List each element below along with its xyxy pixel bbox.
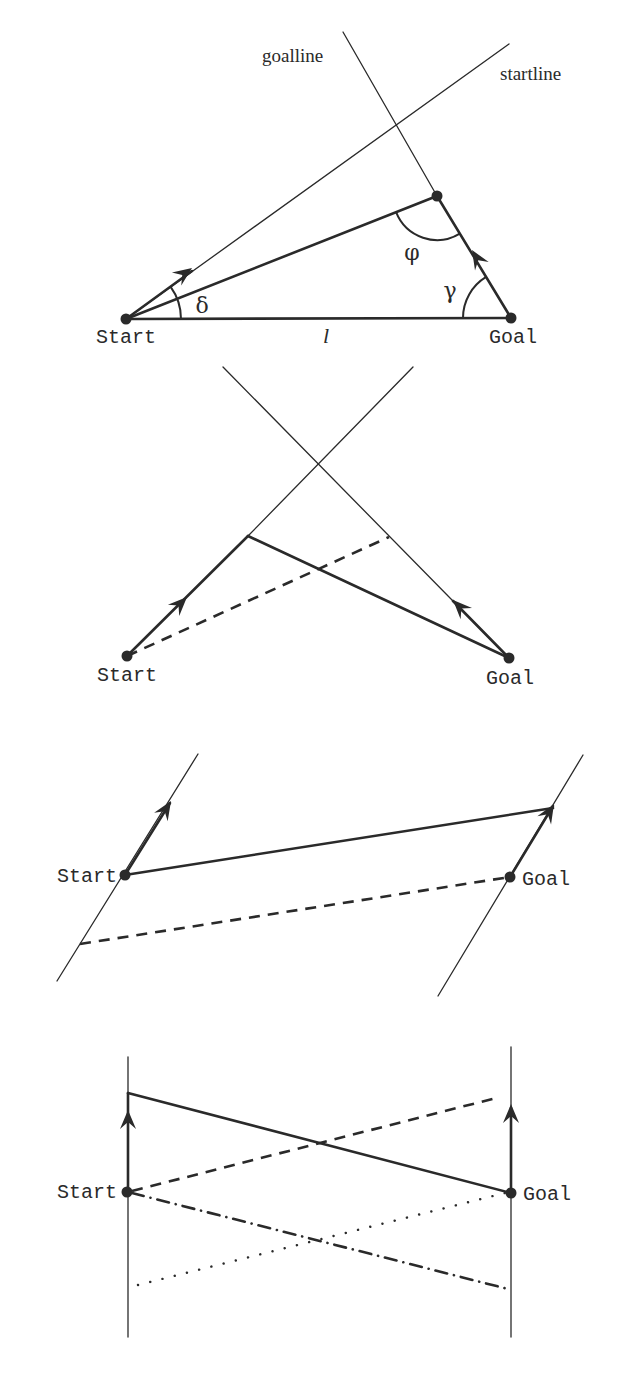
figure-canvas: goallinestartlineStartGoalδγφl StartGoal… [0,0,617,1382]
solid-connector-line [248,536,509,658]
solid-connector-line [125,808,553,875]
dashdot-connector-line [132,1193,508,1289]
goal-label: Goal [489,326,537,349]
panel-parallel-vertical: StartGoal [57,1047,571,1337]
goal-heading-path-line [453,601,509,658]
start-label: Start [57,1181,117,1204]
goalline-label: goalline [262,45,323,66]
gamma-label: γ [443,278,456,303]
goal-label: Goal [486,667,534,690]
goal-dot [506,313,517,324]
panel-parallel-slanted: StartGoal [57,754,583,996]
start-heading-path-line [125,803,170,875]
start-dot [122,651,133,662]
startline-label: startline [500,63,561,84]
goal-dot [504,653,515,664]
start-dot [122,1187,133,1198]
dotted-connector-line [138,1193,505,1285]
startline-line [248,367,413,536]
start-dot [120,870,131,881]
start-to-apex-path-line [126,196,437,319]
dashed-connector-line [80,877,510,944]
start-dot [121,314,132,325]
phi-label: φ [404,240,419,265]
panel-crossing-lines: StartGoal [97,367,534,690]
start-heading-arrow-icon [154,801,171,821]
goalline-line [343,32,437,196]
start-label: Start [57,865,117,888]
apex-dot [432,191,443,202]
delta-label: δ [195,293,208,318]
goal-dot [505,872,516,883]
start-heading-path-line [127,536,248,656]
delta-arc [170,287,181,319]
goal-label: Goal [522,868,570,891]
goal-dot [506,1188,517,1199]
baseline-l-line [126,318,511,319]
start-label: Start [97,664,157,687]
dashed-connector-line [127,537,389,656]
goal-label: Goal [523,1183,571,1206]
goal-heading-path-line [510,806,553,877]
gamma-arc [463,277,486,318]
start-label: Start [96,326,156,349]
length-label: l [323,323,329,348]
panel-triangle: goallinestartlineStartGoalδγφl [96,32,561,349]
goal-heading-arrow-icon [537,804,554,824]
